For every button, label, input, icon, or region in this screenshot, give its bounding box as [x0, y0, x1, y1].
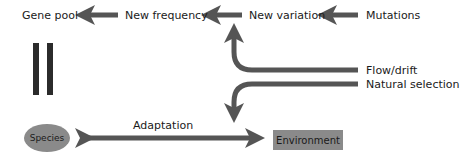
- node-mutations: Mutations: [366, 9, 420, 22]
- node-species: Species: [24, 124, 70, 152]
- node-flow-drift: Flow/drift: [366, 64, 417, 77]
- arrow-flowdrift-to-variation: [234, 32, 358, 70]
- node-environment: Environment: [273, 130, 343, 150]
- node-gene-pool: Gene pool: [22, 9, 78, 22]
- equals-bar-right: [47, 43, 53, 95]
- arrow-selection-to-adaptation: [234, 84, 358, 114]
- equals-bar-left: [33, 43, 39, 95]
- edge-label-adaptation: Adaptation: [133, 119, 193, 132]
- evolution-diagram: Gene pool New frequency New variation Mu…: [0, 0, 466, 164]
- node-natural-selection: Natural selection: [366, 78, 460, 91]
- node-new-frequency: New frequency: [125, 9, 208, 22]
- node-new-variation: New variation: [249, 9, 325, 22]
